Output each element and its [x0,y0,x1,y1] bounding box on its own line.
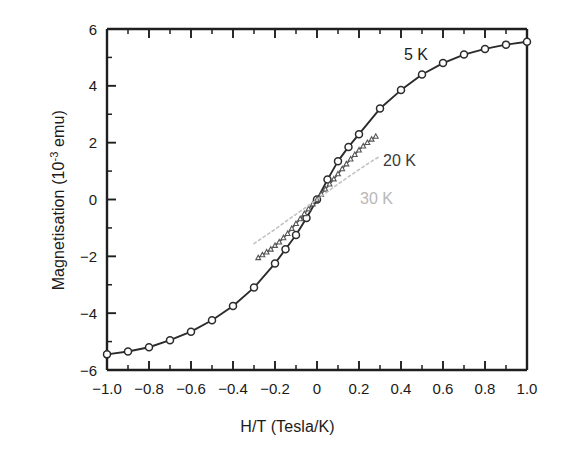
data-point-marker [209,317,216,324]
x-tick-label: 0.8 [475,380,496,397]
data-point-marker [272,260,279,267]
y-axis-label: Magnetisation (10-3 emu) [48,30,68,370]
data-point-marker [146,344,153,351]
y-axis-label-exponent: -3 [48,151,60,161]
x-tick-label: −1.0 [92,380,122,397]
data-point-marker [335,158,342,165]
data-point-marker [230,303,237,310]
data-series-group [104,38,531,358]
x-tick-label: 1.0 [517,380,538,397]
x-tick-label: −0.8 [134,380,164,397]
x-tick-label: −0.6 [176,380,206,397]
y-tick-label: −2 [80,248,97,265]
magnetisation-chart-figure: −1.0−0.8−0.6−0.4−0.200.20.40.60.81.06420… [0,0,575,456]
y-tick-label: 6 [89,21,97,38]
y-axis-label-prefix: Magnetisation (10 [50,161,67,290]
y-tick-label: 4 [89,77,97,94]
data-point-marker [419,71,426,78]
data-point-marker [188,328,195,335]
y-tick-label: −4 [80,305,97,322]
y-axis-label-suffix: emu) [50,110,67,151]
series-label-30k: 30 K [360,190,393,208]
x-tick-label: −0.2 [260,380,290,397]
x-tick-label: 0.2 [349,380,370,397]
data-point-marker [125,348,132,355]
y-tick-label: 0 [89,191,97,208]
data-point-marker [251,284,258,291]
data-point-marker [356,131,363,138]
data-point-marker [440,60,447,67]
data-point-marker [345,143,352,150]
plot-canvas: −1.0−0.8−0.6−0.4−0.200.20.40.60.81.06420… [0,0,575,456]
data-point-marker [482,45,489,52]
data-point-marker [167,337,174,344]
y-tick-label: −6 [80,362,97,379]
data-point-marker [373,134,378,138]
data-point-marker [282,246,289,253]
data-point-marker [377,105,384,112]
x-tick-label: −0.4 [218,380,248,397]
series-label-20k: 20 K [383,152,416,170]
data-point-marker [524,38,531,45]
series-label-5k: 5 K [404,46,428,64]
x-tick-label: 0.6 [433,380,454,397]
data-point-marker [461,51,468,58]
x-tick-label: 0 [313,380,321,397]
x-tick-label: 0.4 [391,380,412,397]
data-point-marker [104,351,111,358]
data-point-marker [503,41,510,48]
y-tick-label: 2 [89,134,97,151]
x-axis-label: H/T (Tesla/K) [0,418,575,436]
data-point-marker [398,87,405,94]
data-point-marker [293,232,300,239]
